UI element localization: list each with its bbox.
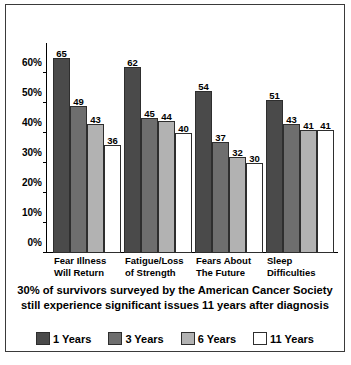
category-label: Fatigue/Lossof Strength <box>125 255 184 279</box>
y-tick-mark <box>43 132 46 133</box>
bar-value-label: 37 <box>215 133 226 143</box>
bar-value-label: 32 <box>232 148 243 158</box>
chart-legend: 1 Years3 Years6 Years11 Years <box>6 332 344 345</box>
bar: 40 <box>175 133 192 253</box>
bar-group: 62454440 <box>124 43 192 253</box>
y-tick-mark <box>43 162 46 163</box>
bar-value-label: 45 <box>144 109 155 119</box>
legend-item[interactable]: 3 Years <box>108 332 163 345</box>
bar: 32 <box>229 157 246 253</box>
bar-value-label: 51 <box>269 91 280 101</box>
y-tick-mark <box>43 72 46 73</box>
y-tick-label: 40% <box>22 117 42 128</box>
bar-value-label: 65 <box>56 49 67 59</box>
legend-swatch <box>253 332 267 345</box>
bar: 43 <box>87 124 104 253</box>
bar: 49 <box>70 106 87 253</box>
y-tick-label: 50% <box>22 87 42 98</box>
legend-item[interactable]: 1 Years <box>36 332 91 345</box>
y-tick-label: 60% <box>22 57 42 68</box>
category-label-line: of Strength <box>125 267 184 279</box>
bar: 30 <box>246 163 263 253</box>
category-label-line: Will Return <box>54 267 106 279</box>
bar-group: 54373230 <box>195 43 263 253</box>
y-tick-mark <box>43 192 46 193</box>
y-tick-label: 30% <box>22 147 42 158</box>
legend-label: 3 Years <box>125 333 163 345</box>
chart-frame: 0%10%20%30%40%50%60% 6549433662454440543… <box>5 4 345 352</box>
legend-item[interactable]: 11 Years <box>253 332 314 345</box>
caption-line: still experience significant issues 11 y… <box>6 298 344 313</box>
bar: 54 <box>195 91 212 253</box>
y-tick-mark <box>43 252 46 253</box>
caption-line: 30% of survivors surveyed by the America… <box>6 283 344 298</box>
category-label: SleepDifficulties <box>267 255 316 279</box>
legend-swatch <box>181 332 195 345</box>
bar-group: 51434141 <box>266 43 334 253</box>
bar: 36 <box>104 145 121 253</box>
y-tick-label: 0% <box>28 237 42 248</box>
legend-swatch <box>36 332 50 345</box>
chart-caption: 30% of survivors surveyed by the America… <box>6 283 344 313</box>
legend-swatch <box>108 332 122 345</box>
bar-value-label: 49 <box>73 97 84 107</box>
bar: 51 <box>266 100 283 253</box>
bar-value-label: 62 <box>127 58 138 68</box>
y-axis-line <box>46 43 47 253</box>
bar-value-label: 43 <box>286 115 297 125</box>
legend-label: 1 Years <box>53 333 91 345</box>
legend-label: 6 Years <box>198 333 236 345</box>
category-label-line: Fears About <box>196 255 251 267</box>
bar-value-label: 43 <box>90 115 101 125</box>
category-label: Fears AboutThe Future <box>196 255 251 279</box>
bar: 45 <box>141 118 158 253</box>
category-label: Fear IllnessWill Return <box>54 255 106 279</box>
bar: 37 <box>212 142 229 253</box>
legend-item[interactable]: 6 Years <box>181 332 236 345</box>
category-label-line: The Future <box>196 267 251 279</box>
category-label-line: Sleep <box>267 255 316 267</box>
bar: 41 <box>300 130 317 253</box>
bar-group: 65494336 <box>53 43 121 253</box>
bar: 41 <box>317 130 334 253</box>
bar-value-label: 54 <box>198 82 209 92</box>
y-tick-label: 10% <box>22 207 42 218</box>
legend-label: 11 Years <box>270 333 314 345</box>
category-label-line: Fear Illness <box>54 255 106 267</box>
bar: 62 <box>124 67 141 253</box>
bar-value-label: 41 <box>320 121 331 131</box>
y-tick-mark <box>43 102 46 103</box>
bar: 43 <box>283 124 300 253</box>
category-label-line: Difficulties <box>267 267 316 279</box>
bar-value-label: 40 <box>178 124 189 134</box>
bar: 65 <box>53 58 70 253</box>
bar: 44 <box>158 121 175 253</box>
plot-area: 0%10%20%30%40%50%60% 6549433662454440543… <box>46 43 338 253</box>
bar-value-label: 36 <box>107 136 118 146</box>
category-label-line: Fatigue/Loss <box>125 255 184 267</box>
bar-value-label: 30 <box>249 154 260 164</box>
y-tick-mark <box>43 222 46 223</box>
y-tick-label: 20% <box>22 177 42 188</box>
bar-value-label: 44 <box>161 112 172 122</box>
bar-value-label: 41 <box>303 121 314 131</box>
